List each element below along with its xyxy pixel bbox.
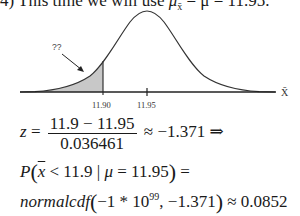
prob-equals: = (176, 162, 190, 181)
function-name: normalcdf (20, 192, 90, 211)
z-score-equation: z = 11.9 − 11.950.036461 ≈ −1.371 ⇒ (20, 114, 224, 153)
prob-condition: < 11.9 | (45, 162, 104, 181)
equals-sign: = (27, 122, 45, 141)
annotation-arrow (62, 54, 82, 70)
prob-P: P (20, 162, 30, 181)
z-numerator: 11.9 − 11.95 (48, 114, 137, 134)
normal-curve-plot: ?? 11.90 11.95 X̄ (0, 0, 300, 112)
upper-bound: , −1.371 (159, 192, 215, 211)
prob-mu-value: = 11.95 (113, 162, 169, 181)
x-axis-label: X̄ (281, 87, 289, 98)
prob-mu: μ (104, 162, 113, 181)
normalcdf-computation: normalcdf(−1 * 1099, −1.371) ≈ 0.0852 (20, 189, 288, 215)
z-result: ≈ −1.371 ⇒ (140, 122, 224, 141)
z-denominator: 0.036461 (48, 134, 137, 153)
tick-label-11-90: 11.90 (92, 100, 111, 110)
tick-label-11-95: 11.95 (137, 100, 156, 110)
z-variable: z (20, 122, 27, 141)
probability-result: ≈ 0.0852 (223, 192, 288, 211)
probability-statement: P(x < 11.9 | μ = 11.95) = (20, 159, 190, 185)
lower-bound: −1 * 10 (97, 192, 149, 211)
lower-bound-exponent: 99 (149, 191, 159, 202)
z-fraction: 11.9 − 11.950.036461 (48, 114, 137, 153)
annotation-label: ?? (52, 42, 62, 52)
